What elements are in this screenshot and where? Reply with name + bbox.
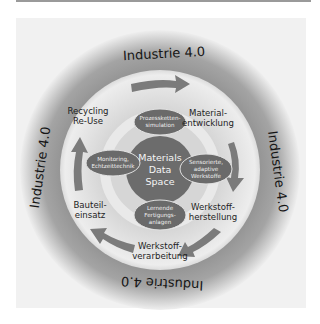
step-bauteileinsatz: Bauteil- einsatz — [73, 200, 106, 220]
tech-sensorierte-werkstoffe: Sensorierte, adaptive Werkstoffe — [189, 159, 223, 180]
step-materialentwicklung: Material- entwicklung — [182, 108, 234, 128]
step-recycling-reuse: Recycling Re-Use — [67, 106, 108, 126]
tech-prozesskettensimulation: Prozessketten- simulation — [140, 115, 181, 129]
tech-lernende-fertigungsanlagen: Lernende Fertigungs- anlagen — [144, 205, 176, 226]
tech-monitoring-echtzeittechnik: Monitoring, Echtzeittechnik — [91, 156, 134, 170]
step-werkstoffherstellung: Werkstoff- herstellung — [189, 202, 238, 222]
step-werkstoffverarbeitung: Werkstoff- verarbeitung — [132, 241, 188, 261]
core-materials-data-space: Materials Data Space — [138, 152, 182, 188]
